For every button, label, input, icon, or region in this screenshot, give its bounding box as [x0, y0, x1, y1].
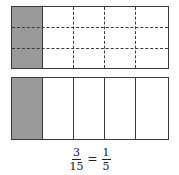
shaded-column — [12, 7, 43, 68]
fraction-left: 3 15 — [69, 147, 83, 172]
dashed-row-divider — [12, 48, 168, 49]
numerator: 1 — [102, 147, 111, 160]
fraction-model-fifteenths — [11, 6, 169, 69]
fraction-equation: 3 15 = 1 5 — [60, 144, 120, 174]
denominator: 15 — [69, 160, 83, 172]
denominator: 5 — [103, 160, 110, 172]
divider-line — [42, 7, 43, 68]
dashed-divider — [104, 7, 105, 68]
dashed-divider — [73, 7, 74, 68]
dashed-divider — [135, 7, 136, 68]
divider-line — [42, 78, 43, 139]
divider-line — [73, 78, 74, 139]
fraction-right: 1 5 — [102, 147, 111, 172]
divider-line — [135, 78, 136, 139]
divider-line — [104, 78, 105, 139]
numerator: 3 — [72, 147, 81, 160]
shaded-column — [12, 78, 43, 139]
fraction-model-fifths — [11, 77, 169, 140]
dashed-row-divider — [12, 27, 168, 28]
equals-sign: = — [87, 152, 97, 166]
